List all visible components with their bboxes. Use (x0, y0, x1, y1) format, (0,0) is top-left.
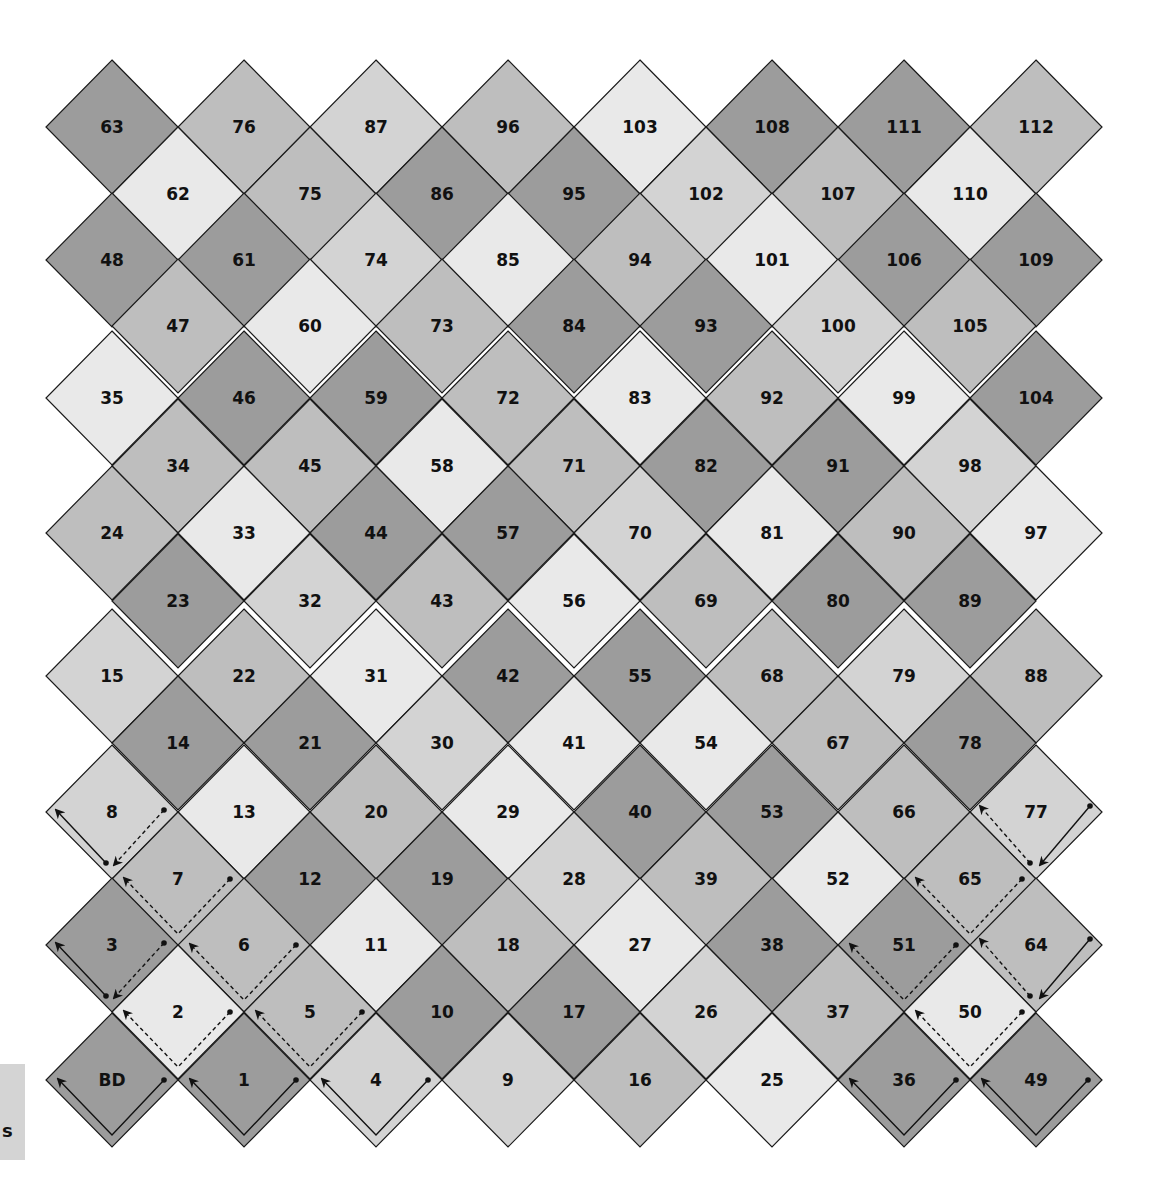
cell-number-label: 78 (958, 733, 982, 753)
cell-number-label: 22 (232, 666, 256, 686)
cell-number-label: 66 (892, 802, 916, 822)
cell-number-label: 6 (238, 935, 250, 955)
cell-number-label: 7 (172, 869, 184, 889)
cell-number-label: 71 (562, 456, 586, 476)
cell-number-label: 34 (166, 456, 190, 476)
cell-number-label: 70 (628, 523, 652, 543)
cell-number-label: 109 (1018, 250, 1054, 270)
cell-number-label: 16 (628, 1070, 652, 1090)
cell-number-label: 76 (232, 117, 256, 137)
cell-number-label: 90 (892, 523, 916, 543)
cell-number-label: 84 (562, 316, 586, 336)
cell-number-label: 91 (826, 456, 850, 476)
cell-number-label: 94 (628, 250, 652, 270)
cell-number-label: 61 (232, 250, 256, 270)
cell-number-label: 1 (238, 1070, 250, 1090)
cell-number-label: 5 (304, 1002, 316, 1022)
cell-number-label: 29 (496, 802, 520, 822)
cell-number-label: 112 (1018, 117, 1054, 137)
cell-number-label: 20 (364, 802, 388, 822)
cell-number-label: 79 (892, 666, 916, 686)
cell-number-label: 35 (100, 388, 124, 408)
cell-number-label: 75 (298, 184, 322, 204)
cell-number-label: 55 (628, 666, 652, 686)
cell-number-label: 4 (370, 1070, 382, 1090)
cell-number-label: 110 (952, 184, 988, 204)
cell-number-label: 62 (166, 184, 190, 204)
cell-number-label: 15 (100, 666, 124, 686)
cell-number-label: 111 (886, 117, 922, 137)
cell-number-label: 57 (496, 523, 520, 543)
cell-number-label: 88 (1024, 666, 1048, 686)
cell-number-label: 14 (166, 733, 190, 753)
cell-number-label: 101 (754, 250, 790, 270)
cell-number-label: 18 (496, 935, 520, 955)
cell-number-label: 68 (760, 666, 784, 686)
cell-number-label: 80 (826, 591, 850, 611)
cell-number-label: 13 (232, 802, 256, 822)
cell-number-label: 52 (826, 869, 850, 889)
cell-number-label: 93 (694, 316, 718, 336)
cell-number-label: 106 (886, 250, 922, 270)
cell-number-label: 105 (952, 316, 988, 336)
diamond-grid-board: 6376879610310811111262758695102107110486… (0, 0, 1150, 1192)
cell-number-label: 42 (496, 666, 520, 686)
cell-number-label: 50 (958, 1002, 982, 1022)
cell-number-label: 77 (1024, 802, 1048, 822)
cell-number-label: 67 (826, 733, 850, 753)
cell-number-label: 48 (100, 250, 124, 270)
cell-number-label: 26 (694, 1002, 718, 1022)
cell-number-label: 19 (430, 869, 454, 889)
cell-number-label: 60 (298, 316, 322, 336)
cell-number-label: 33 (232, 523, 256, 543)
cell-number-label: 95 (562, 184, 586, 204)
cell-number-label: 100 (820, 316, 856, 336)
cell-number-label: 49 (1024, 1070, 1048, 1090)
cells-layer: 6376879610310811111262758695102107110486… (46, 60, 1102, 1147)
cell-number-label: 82 (694, 456, 718, 476)
cell-number-label: 9 (502, 1070, 514, 1090)
cell-number-label: 108 (754, 117, 790, 137)
cell-number-label: 53 (760, 802, 784, 822)
cell-number-label: 73 (430, 316, 454, 336)
cell-number-label: 8 (106, 802, 118, 822)
cell-number-label: 59 (364, 388, 388, 408)
cell-number-label: 12 (298, 869, 322, 889)
cell-number-label: 103 (622, 117, 658, 137)
cell-number-label: 98 (958, 456, 982, 476)
cell-number-label: 41 (562, 733, 586, 753)
cell-number-label: 40 (628, 802, 652, 822)
cell-number-label: 69 (694, 591, 718, 611)
cell-number-label: 21 (298, 733, 322, 753)
cell-number-label: 54 (694, 733, 718, 753)
cell-number-label: 63 (100, 117, 124, 137)
cell-number-label: 10 (430, 1002, 454, 1022)
cell-number-label: 38 (760, 935, 784, 955)
cell-number-label: 87 (364, 117, 388, 137)
cell-number-label: 2 (172, 1002, 184, 1022)
cell-number-label: 31 (364, 666, 388, 686)
cell-number-label: BD (98, 1070, 125, 1090)
cell-number-label: 17 (562, 1002, 586, 1022)
cell-number-label: 89 (958, 591, 982, 611)
cell-number-label: 83 (628, 388, 652, 408)
cell-number-label: 43 (430, 591, 454, 611)
cell-number-label: 45 (298, 456, 322, 476)
cell-number-label: 32 (298, 591, 322, 611)
cell-number-label: 25 (760, 1070, 784, 1090)
cell-number-label: 39 (694, 869, 718, 889)
cell-number-label: 46 (232, 388, 256, 408)
cell-number-label: 74 (364, 250, 388, 270)
cell-number-label: 107 (820, 184, 856, 204)
cell-number-label: 104 (1018, 388, 1054, 408)
cell-number-label: 11 (364, 935, 388, 955)
cell-number-label: 47 (166, 316, 190, 336)
cell-number-label: 99 (892, 388, 916, 408)
cell-number-label: 44 (364, 523, 388, 543)
cell-number-label: 27 (628, 935, 652, 955)
cell-number-label: 65 (958, 869, 982, 889)
cell-number-label: 96 (496, 117, 520, 137)
cell-number-label: 92 (760, 388, 784, 408)
cell-number-label: 37 (826, 1002, 850, 1022)
cell-number-label: 85 (496, 250, 520, 270)
